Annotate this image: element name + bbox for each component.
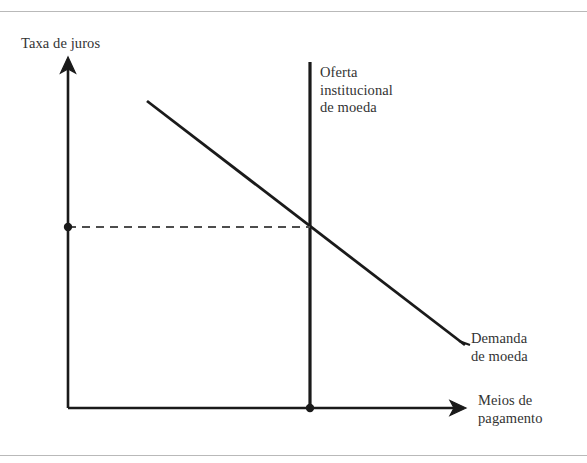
demand-curve	[147, 101, 465, 345]
y-axis-label: Taxa de juros	[21, 35, 100, 53]
money-market-diagram: Taxa de juros Oferta institucional de mo…	[0, 0, 587, 463]
x-axis-label: Meios de pagamento	[478, 392, 543, 427]
money-quantity-marker	[306, 404, 314, 412]
equilibrium-rate-marker	[64, 223, 72, 231]
y-axis	[61, 57, 76, 408]
money-demand-label: Demanda de moeda	[471, 330, 528, 365]
money-supply-label: Oferta institucional de moeda	[320, 64, 393, 117]
x-axis	[68, 401, 466, 416]
